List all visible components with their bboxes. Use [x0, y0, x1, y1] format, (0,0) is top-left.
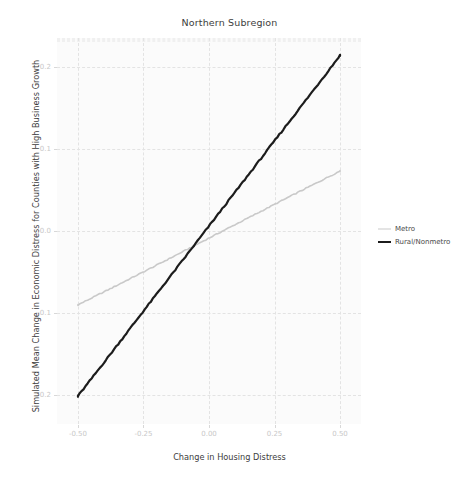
series-layer	[57, 38, 361, 424]
x-tick-mark	[78, 425, 79, 428]
x-tick-label: 0.50	[322, 430, 358, 438]
x-tick-label: 0.00	[191, 430, 227, 438]
legend-item-label: Metro	[395, 225, 415, 233]
y-tick-mark	[54, 67, 57, 68]
x-tick-mark	[209, 425, 210, 428]
y-tick-mark	[54, 395, 57, 396]
legend-item-rural[interactable]: Rural/Nonmetro	[378, 235, 458, 248]
legend-line-swatch-icon	[378, 237, 391, 247]
x-tick-label: -0.25	[125, 430, 161, 438]
x-tick-label: 0.25	[257, 430, 293, 438]
chart-title: Northern Subregion	[0, 17, 459, 28]
legend-item-metro[interactable]: Metro	[378, 222, 458, 235]
x-tick-mark	[275, 425, 276, 428]
x-tick-mark	[340, 425, 341, 428]
plot-panel	[57, 38, 361, 424]
y-tick-mark	[54, 231, 57, 232]
x-axis-title: Change in Housing Distress	[0, 452, 459, 462]
legend: MetroRural/Nonmetro	[378, 222, 458, 248]
legend-item-label: Rural/Nonmetro	[395, 238, 450, 246]
y-tick-mark	[54, 313, 57, 314]
chart-canvas: Northern Subregion -0.2-0.10.00.10.2 -0.…	[0, 0, 459, 481]
y-tick-mark	[54, 149, 57, 150]
x-tick-mark	[143, 425, 144, 428]
x-tick-label: -0.50	[60, 430, 96, 438]
series-line-rural-nonmetro	[78, 55, 340, 397]
series-line-metro	[78, 171, 340, 306]
y-axis-title: Simulated Mean Change in Economic Distre…	[31, 43, 41, 429]
legend-line-swatch-icon	[378, 224, 391, 234]
